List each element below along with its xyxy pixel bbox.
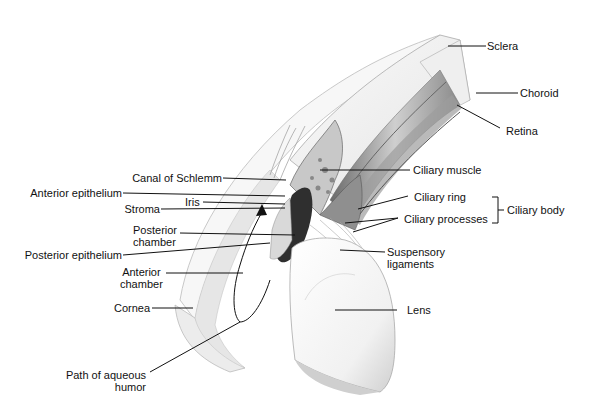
label-choroid: Choroid xyxy=(520,87,559,99)
label-anterior-chamber: Anterior chamber xyxy=(120,266,163,290)
label-stroma: Stroma xyxy=(125,203,160,215)
label-ciliary-processes: Ciliary processes xyxy=(404,213,488,225)
label-anterior-epithelium: Anterior epithelium xyxy=(30,187,122,199)
label-iris: Iris xyxy=(185,196,200,208)
label-path-of-aqueous-humor: Path of aqueous humor xyxy=(66,369,146,393)
label-ciliary-body: Ciliary body xyxy=(507,204,564,216)
label-posterior-epithelium: Posterior epithelium xyxy=(25,249,122,261)
label-posterior-chamber: Posterior chamber xyxy=(133,224,177,248)
label-cornea: Cornea xyxy=(114,302,150,314)
label-suspensory-ligaments: Suspensory ligaments xyxy=(387,246,445,270)
label-sclera: Sclera xyxy=(487,40,518,52)
eye-anatomy-illustration xyxy=(0,0,589,416)
label-ciliary-muscle: Ciliary muscle xyxy=(413,164,481,176)
label-canal-of-schlemm: Canal of Schlemm xyxy=(132,172,222,184)
lens-shape xyxy=(290,238,395,395)
label-ciliary-ring: Ciliary ring xyxy=(414,191,466,203)
label-retina: Retina xyxy=(506,125,538,137)
label-lens: Lens xyxy=(407,304,431,316)
